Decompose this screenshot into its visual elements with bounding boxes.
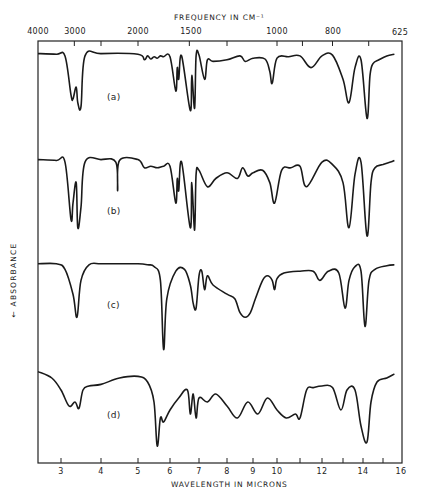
bottom-tick-8: 8 bbox=[224, 467, 229, 476]
bottom-tick-6: 6 bbox=[167, 467, 172, 476]
bottom-tick-5: 5 bbox=[135, 467, 140, 476]
spectrum-line-a bbox=[38, 50, 394, 118]
top-tick-4000: 4000 bbox=[27, 27, 49, 36]
series-label-a: (a) bbox=[107, 92, 120, 102]
bottom-tick-14: 14 bbox=[358, 467, 369, 476]
spectra-plot bbox=[0, 0, 426, 501]
series-label-b: (b) bbox=[107, 206, 121, 216]
top-axis-title: FREQUENCY IN CM⁻¹ bbox=[174, 13, 265, 22]
y-axis-title-container: ← ABSORBANCE bbox=[6, 190, 20, 370]
bottom-tick-7: 7 bbox=[196, 467, 201, 476]
spectrum-line-c bbox=[38, 263, 394, 349]
ir-spectra-figure: FREQUENCY IN CM⁻¹ 4000 3000 2000 1500 10… bbox=[0, 0, 426, 501]
top-tick-800: 800 bbox=[325, 27, 341, 36]
bottom-tick-16: 16 bbox=[396, 467, 407, 476]
bottom-tick-4: 4 bbox=[98, 467, 103, 476]
y-axis-title: ← ABSORBANCE bbox=[9, 243, 18, 318]
bottom-tick-9: 9 bbox=[250, 467, 255, 476]
spectrum-line-b bbox=[38, 157, 394, 236]
top-tick-1000: 1000 bbox=[266, 27, 288, 36]
bottom-axis-title: WAVELENGTH IN MICRONS bbox=[171, 480, 288, 489]
top-tick-2000: 2000 bbox=[127, 27, 149, 36]
spectrum-line-d bbox=[38, 372, 394, 447]
top-tick-1500: 1500 bbox=[180, 27, 202, 36]
series-label-d: (d) bbox=[107, 410, 121, 420]
plot-frame bbox=[38, 41, 402, 463]
bottom-tick-12: 12 bbox=[317, 467, 328, 476]
top-tick-625: 625 bbox=[392, 28, 408, 37]
bottom-tick-3: 3 bbox=[58, 467, 63, 476]
spectrum-curves bbox=[38, 50, 394, 446]
bottom-tick-10: 10 bbox=[272, 467, 283, 476]
top-tick-3000: 3000 bbox=[64, 27, 86, 36]
series-label-c: (c) bbox=[107, 300, 120, 310]
